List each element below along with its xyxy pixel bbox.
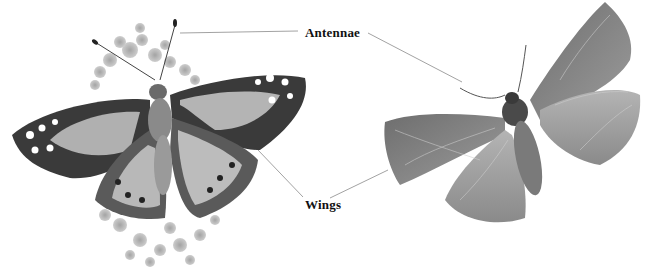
leader-wings-butterfly (258, 150, 303, 197)
moth-illustration (384, 2, 640, 222)
label-antennae: Antennae (305, 25, 360, 41)
leader-antennae-butterfly (180, 31, 298, 33)
butterfly-illustration (12, 19, 306, 267)
label-wings: Wings (305, 197, 341, 213)
leader-antennae-moth (368, 33, 462, 82)
leader-wings-moth (330, 170, 388, 198)
